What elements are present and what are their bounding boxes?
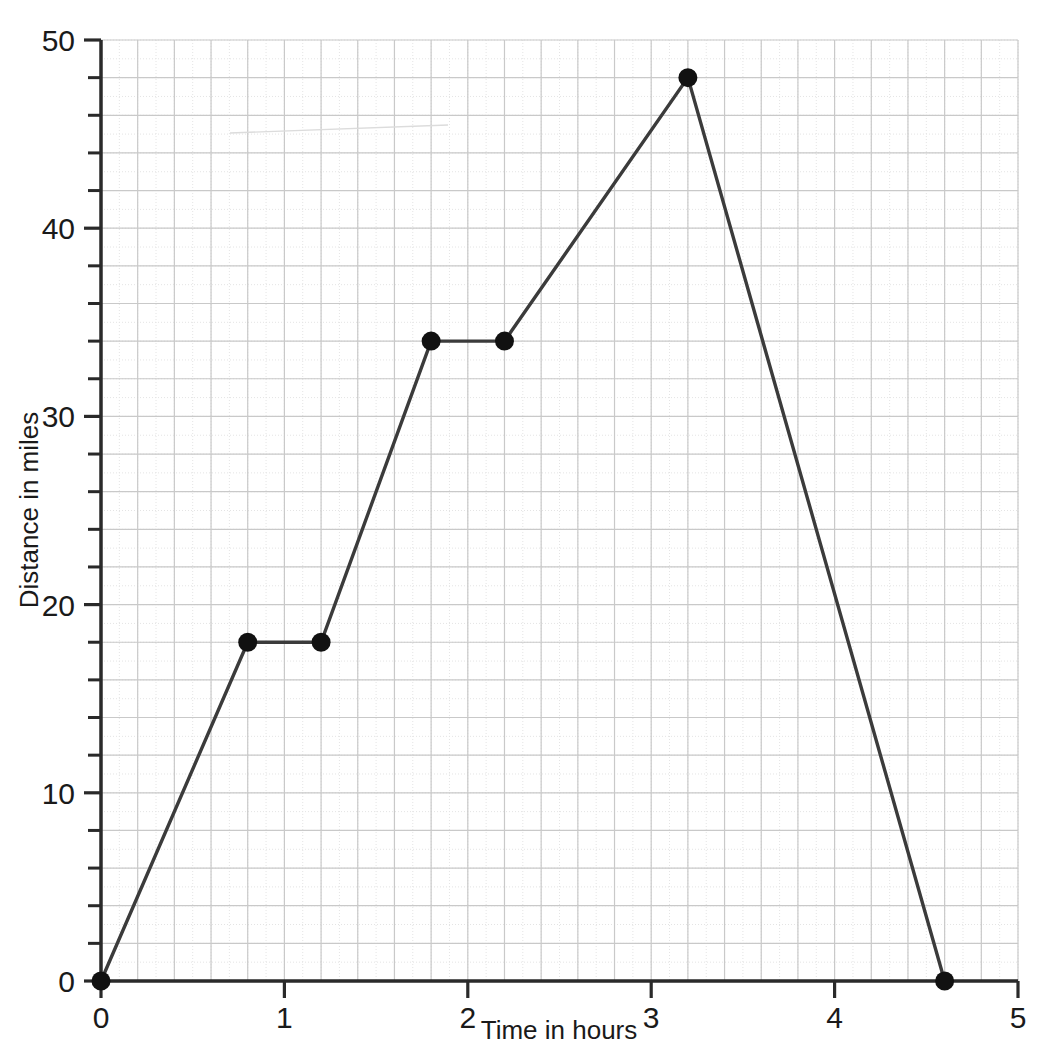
chart-container: 01020304050 012345 Time in hours Distanc… bbox=[0, 0, 1038, 1064]
y-tick-label: 40 bbox=[42, 212, 75, 245]
line-chart: 01020304050 012345 Time in hours Distanc… bbox=[0, 0, 1038, 1064]
y-tick-label: 20 bbox=[42, 589, 75, 622]
data-point-marker bbox=[935, 972, 954, 991]
x-tick-label: 3 bbox=[643, 1001, 660, 1034]
data-point-marker bbox=[92, 972, 111, 991]
data-point-marker bbox=[678, 68, 697, 87]
y-axis-title: Distance in miles bbox=[14, 412, 44, 609]
x-tick-label: 0 bbox=[93, 1001, 110, 1034]
x-tick-label: 2 bbox=[459, 1001, 476, 1034]
y-tick-label: 0 bbox=[58, 965, 75, 998]
data-point-marker bbox=[238, 633, 257, 652]
y-tick-label: 10 bbox=[42, 777, 75, 810]
data-point-marker bbox=[312, 633, 331, 652]
x-tick-label: 5 bbox=[1010, 1001, 1027, 1034]
data-point-marker bbox=[495, 332, 514, 351]
y-tick-label: 50 bbox=[42, 24, 75, 57]
x-tick-label: 1 bbox=[276, 1001, 293, 1034]
x-axis-title: Time in hours bbox=[481, 1015, 638, 1045]
data-point-marker bbox=[422, 332, 441, 351]
x-tick-label: 4 bbox=[826, 1001, 843, 1034]
y-tick-label: 30 bbox=[42, 400, 75, 433]
